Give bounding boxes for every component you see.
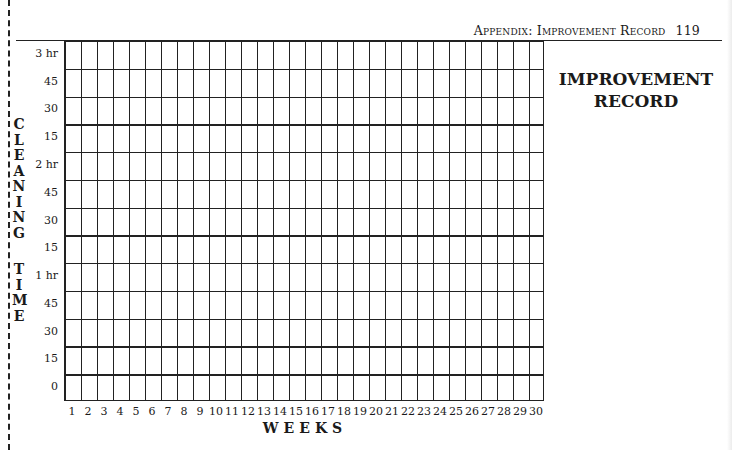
y-tick-label: 15	[24, 353, 58, 365]
y-tick-label: 15	[24, 242, 58, 254]
y-tick-label: 1 hr	[24, 270, 58, 282]
x-tick-label: 30	[528, 406, 544, 418]
y-axis-title-letter: I	[12, 195, 26, 210]
x-tick-label: 5	[128, 406, 144, 418]
y-tick-label: 3 hr	[24, 48, 58, 60]
x-tick-label: 2	[80, 406, 96, 418]
y-tick-label: 15	[24, 131, 58, 143]
y-axis-title-letter: A	[12, 164, 26, 179]
x-tick-label: 4	[112, 406, 128, 418]
x-tick-label: 15	[288, 406, 304, 418]
page-gutter-shadow	[727, 0, 732, 450]
y-axis-title-letter: M	[12, 293, 26, 308]
x-axis-title: WEEKS	[230, 420, 380, 436]
y-axis-title-letter: E	[12, 148, 26, 163]
y-axis-title-letter: I	[12, 278, 26, 293]
title-line-1: IMPROVEMENT	[548, 68, 724, 90]
x-tick-label: 16	[304, 406, 320, 418]
y-axis-title-letter: G	[12, 226, 26, 241]
x-tick-label: 17	[320, 406, 336, 418]
running-head: Appendix: Improvement Record119	[474, 23, 700, 38]
x-tick-label: 14	[272, 406, 288, 418]
x-tick-label: 1	[64, 406, 80, 418]
title-line-2: RECORD	[548, 90, 724, 112]
x-tick-label: 24	[432, 406, 448, 418]
x-tick-label: 13	[256, 406, 272, 418]
y-tick-label: 45	[24, 76, 58, 88]
x-tick-label: 22	[400, 406, 416, 418]
x-tick-label: 26	[464, 406, 480, 418]
y-axis-title-letter: C	[12, 117, 26, 132]
running-head-text: Appendix: Improvement Record	[474, 23, 666, 38]
x-tick-label: 18	[336, 406, 352, 418]
y-axis-title-letter: L	[12, 133, 26, 148]
x-tick-label: 6	[144, 406, 160, 418]
page-cut-edge	[8, 0, 10, 450]
record-grid[interactable]	[64, 40, 544, 401]
x-tick-label: 10	[208, 406, 224, 418]
x-tick-label: 28	[496, 406, 512, 418]
x-tick-label: 7	[160, 406, 176, 418]
x-tick-label: 20	[368, 406, 384, 418]
x-tick-label: 8	[176, 406, 192, 418]
x-tick-label: 9	[192, 406, 208, 418]
y-tick-label: 45	[24, 298, 58, 310]
y-axis-title-letter: T	[12, 262, 26, 277]
x-tick-label: 25	[448, 406, 464, 418]
x-tick-label: 12	[240, 406, 256, 418]
page-number: 119	[676, 23, 700, 38]
y-tick-label: 30	[24, 103, 58, 115]
y-axis-title-letter: N	[12, 179, 26, 194]
y-axis-title-letter: N	[12, 210, 26, 225]
y-tick-label: 2 hr	[24, 159, 58, 171]
y-tick-label: 30	[24, 326, 58, 338]
y-tick-label: 0	[24, 381, 58, 393]
x-tick-label: 27	[480, 406, 496, 418]
x-tick-label: 21	[384, 406, 400, 418]
x-tick-label: 29	[512, 406, 528, 418]
x-tick-label: 11	[224, 406, 240, 418]
x-tick-label: 3	[96, 406, 112, 418]
y-tick-label: 45	[24, 187, 58, 199]
page-title: IMPROVEMENT RECORD	[548, 68, 724, 112]
x-tick-label: 19	[352, 406, 368, 418]
x-tick-label: 23	[416, 406, 432, 418]
y-axis-title-letter: E	[12, 309, 26, 324]
y-tick-label: 30	[24, 215, 58, 227]
